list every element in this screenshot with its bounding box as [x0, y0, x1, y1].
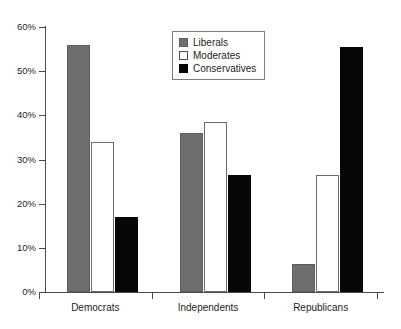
bar-independents-liberals: [180, 133, 203, 292]
legend-item-liberals: Liberals: [179, 36, 256, 49]
x-axis-label-independents: Independents: [152, 302, 265, 313]
legend-item-moderates: Moderates: [179, 49, 256, 62]
y-axis-tick-label: 40%: [0, 110, 36, 120]
y-axis-tick-label: 60%: [0, 22, 36, 32]
bar-chart: 0%10%20%30%40%50%60% DemocratsIndependen…: [0, 0, 401, 329]
y-axis-tick: [39, 204, 46, 205]
y-axis-tick-label: 20%: [0, 199, 36, 209]
bar-republicans-conservatives: [340, 47, 363, 292]
y-axis-tick-label: 10%: [0, 243, 36, 253]
y-axis-tick-label: 0%: [0, 287, 36, 297]
legend-item-conservatives: Conservatives: [179, 62, 256, 75]
chart-legend: Liberals Moderates Conservatives: [172, 31, 265, 80]
y-axis-tick: [39, 292, 46, 293]
y-axis-tick: [39, 27, 46, 28]
x-axis-tick: [377, 292, 378, 299]
y-axis-tick-label: 50%: [0, 66, 36, 76]
y-axis-tick-label: 30%: [0, 155, 36, 165]
legend-swatch-moderates: [179, 51, 188, 60]
x-axis-tick: [264, 292, 265, 299]
bar-democrats-liberals: [67, 45, 90, 292]
bar-republicans-moderates: [316, 175, 339, 292]
x-axis-line: [39, 292, 384, 293]
x-axis-tick: [152, 292, 153, 299]
bar-democrats-conservatives: [115, 217, 138, 292]
legend-label-conservatives: Conservatives: [193, 64, 256, 74]
x-axis-label-democrats: Democrats: [39, 302, 152, 313]
legend-label-moderates: Moderates: [193, 51, 240, 61]
x-axis-label-republicans: Republicans: [264, 302, 377, 313]
y-axis-tick: [39, 71, 46, 72]
y-axis-tick: [39, 115, 46, 116]
legend-label-liberals: Liberals: [193, 38, 228, 48]
legend-swatch-liberals: [179, 38, 188, 47]
y-axis-tick: [39, 248, 46, 249]
legend-swatch-conservatives: [179, 64, 188, 73]
y-axis-tick: [39, 160, 46, 161]
bar-independents-conservatives: [228, 175, 251, 292]
bar-democrats-moderates: [91, 142, 114, 292]
x-axis-tick: [39, 292, 40, 299]
bar-independents-moderates: [204, 122, 227, 292]
bar-republicans-liberals: [292, 264, 315, 292]
